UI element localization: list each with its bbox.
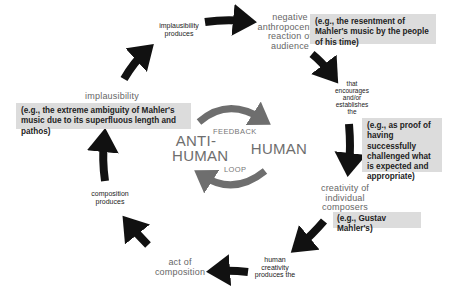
example-box-resentment: (e.g., the resentment of Mahler's music … — [310, 14, 436, 44]
example-box-proof: (e.g., as proof of having successfully c… — [362, 118, 442, 172]
center-label-feedback: FEEDBACK — [213, 127, 257, 136]
node-act-of-composition: act of composition — [150, 258, 210, 277]
center-label-human: HUMAN — [248, 141, 310, 156]
arrow-upper-right-icon — [312, 54, 331, 74]
node-creativity: creativity of individual composers — [312, 184, 378, 213]
arrow-right-icon — [349, 124, 350, 165]
arrow-lower-right-icon — [300, 221, 324, 245]
loop-arrow-top-icon — [199, 109, 262, 122]
feedback-loop-diagram: implausibility produces negative anthrop… — [0, 0, 454, 298]
arrow-left-icon — [103, 140, 105, 181]
arrow-upper-left-icon — [124, 52, 145, 79]
center-label-anti-human: ANTI- HUMAN — [172, 133, 220, 163]
arrow-lower-left-icon — [130, 225, 148, 245]
example-box-gustav: (e.g., Gustav Mahler's) — [333, 212, 421, 228]
node-implausibility-produces: implausibility produces — [152, 22, 206, 37]
center-label-loop: LOOP — [224, 165, 246, 174]
node-implausibility: implausibility — [80, 92, 144, 102]
node-composition-produces: composition produces — [85, 190, 135, 205]
node-that-encourages: that encourages and/or establishes the — [330, 80, 374, 115]
node-human-creativity: human creativity produces the — [250, 256, 300, 279]
example-box-ambiguity: (e.g., the extreme ambiguity of Mahler's… — [16, 103, 191, 129]
arrow-top-icon — [205, 20, 245, 22]
arrow-bottom-icon — [218, 271, 248, 272]
